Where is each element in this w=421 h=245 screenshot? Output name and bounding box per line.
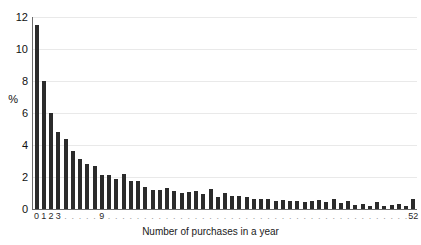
y-tick-label: 6 — [22, 108, 28, 119]
x-tick-dot: . — [398, 211, 401, 222]
x-tick-dot: . — [130, 211, 133, 222]
y-tick-label: 8 — [22, 76, 28, 87]
x-tick-dot: . — [144, 211, 147, 222]
bar — [288, 201, 292, 209]
bar — [353, 205, 357, 209]
bar — [165, 188, 169, 209]
x-tick-dot: . — [64, 211, 67, 222]
x-tick-dot: . — [325, 211, 328, 222]
bar — [158, 190, 162, 209]
x-tick-dot: . — [267, 211, 270, 222]
y-tick-label: 4 — [22, 140, 28, 151]
x-tick-dot: . — [354, 211, 357, 222]
y-axis-tick-labels: 024681012 — [0, 0, 31, 245]
bar — [35, 25, 39, 209]
x-tick-dot: . — [115, 211, 118, 222]
x-tick-dot: . — [173, 211, 176, 222]
bar — [390, 205, 394, 209]
x-tick-dot: . — [383, 211, 386, 222]
x-tick-dot: . — [296, 211, 299, 222]
bar — [252, 199, 256, 209]
x-tick-dot: . — [376, 211, 379, 222]
bars-layer — [33, 17, 417, 209]
x-axis-title: Number of purchases in a year — [0, 226, 421, 238]
bar — [382, 206, 386, 209]
x-tick-label: 1 — [41, 211, 46, 222]
x-tick-dot: . — [361, 211, 364, 222]
bar — [78, 159, 82, 209]
bar — [187, 192, 191, 209]
x-tick-dot: . — [332, 211, 335, 222]
x-tick-dot: . — [274, 211, 277, 222]
x-tick-dot: . — [311, 211, 314, 222]
bar — [303, 202, 307, 209]
x-tick-label: 2 — [49, 211, 54, 222]
bar — [194, 191, 198, 209]
x-tick-dot: . — [216, 211, 219, 222]
x-tick-dot: . — [72, 211, 75, 222]
x-tick-dot: . — [231, 211, 234, 222]
x-tick-dot: . — [209, 211, 212, 222]
x-tick-dot: . — [390, 211, 393, 222]
x-tick-dot: . — [159, 211, 162, 222]
y-tick-label: 10 — [16, 44, 28, 55]
x-tick-dot: . — [195, 211, 198, 222]
x-tick-dot: . — [188, 211, 191, 222]
x-tick-dot: . — [260, 211, 263, 222]
bar — [122, 174, 126, 209]
bar — [56, 132, 60, 209]
bar — [107, 175, 111, 209]
bar — [49, 113, 53, 209]
bar — [310, 201, 314, 209]
bar — [317, 200, 321, 209]
bar — [93, 166, 97, 209]
x-tick-dot: . — [137, 211, 140, 222]
y-tick-label: 12 — [16, 12, 28, 23]
bar — [71, 151, 75, 209]
x-tick-dot: . — [180, 211, 183, 222]
bar — [85, 164, 89, 209]
bar — [223, 193, 227, 209]
axis-baseline — [33, 209, 417, 210]
y-tick-label: 0 — [22, 204, 28, 215]
bar — [151, 190, 155, 209]
x-tick-dot: . — [245, 211, 248, 222]
bar — [136, 181, 140, 209]
bar — [361, 204, 365, 209]
y-tick-label: 2 — [22, 172, 28, 183]
x-tick-dot: . — [108, 211, 111, 222]
x-tick-label: 3 — [56, 211, 61, 222]
x-tick-dot: . — [289, 211, 292, 222]
x-tick-dot: . — [86, 211, 89, 222]
bar — [100, 175, 104, 209]
x-tick-dot: . — [405, 211, 408, 222]
bar-chart: % 024681012 0123.....9..................… — [0, 0, 421, 245]
bar — [324, 202, 328, 209]
x-tick-dot: . — [122, 211, 125, 222]
bar — [274, 201, 278, 209]
x-tick-dot: . — [303, 211, 306, 222]
x-tick-dot: . — [93, 211, 96, 222]
bar — [339, 203, 343, 209]
x-tick-dot: . — [347, 211, 350, 222]
x-tick-dot: . — [151, 211, 154, 222]
plot-area — [33, 17, 417, 209]
bar — [180, 193, 184, 209]
bar — [143, 187, 147, 209]
bar — [209, 189, 213, 209]
bar — [346, 201, 350, 209]
x-tick-dot: . — [166, 211, 169, 222]
bar — [295, 201, 299, 209]
bar — [404, 206, 408, 209]
x-tick-dot: . — [202, 211, 205, 222]
bar — [172, 191, 176, 209]
x-tick-dot: . — [318, 211, 321, 222]
bar — [237, 196, 241, 209]
bar — [259, 199, 263, 209]
bar — [368, 206, 372, 209]
x-tick-dot: . — [282, 211, 285, 222]
bar — [266, 199, 270, 209]
x-tick-dot: . — [224, 211, 227, 222]
x-tick-dot: . — [340, 211, 343, 222]
x-tick-label: 0 — [34, 211, 39, 222]
